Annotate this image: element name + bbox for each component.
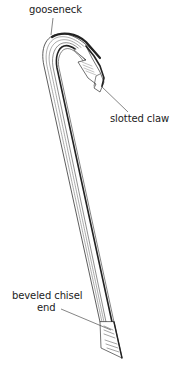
label-beveled-chisel-end: beveled chisel <box>12 290 82 302</box>
gooseneck-leader-line <box>51 18 53 35</box>
slotted-claw-leader-line <box>101 86 128 112</box>
label-gooseneck: gooseneck <box>29 4 82 16</box>
shaft-outline-inner <box>58 49 114 322</box>
crowbar-diagram <box>0 0 174 366</box>
label-beveled-chisel-end-line2: end <box>37 302 56 314</box>
claw-outline <box>74 46 104 92</box>
label-slotted-claw: slotted claw <box>110 113 169 125</box>
